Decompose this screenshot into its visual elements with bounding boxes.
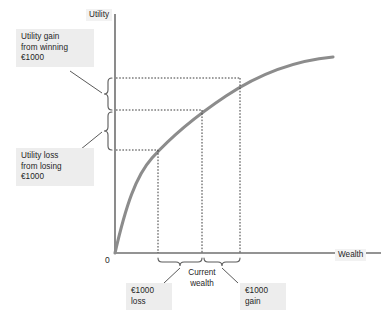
annotation-current-wealth: Current wealth [170, 268, 234, 289]
utility-gain-brace [104, 78, 112, 110]
annotation-gain-amount: €1000 gain [240, 283, 286, 310]
utility-loss-brace [104, 112, 112, 150]
annotation-loss-amount: €1000 loss [126, 283, 172, 310]
utility-curve [115, 57, 333, 253]
leader-line-utility-gain [70, 71, 102, 93]
x-axis-label: Wealth [335, 249, 366, 261]
loss-amount-brace [158, 258, 202, 266]
annotation-utility-loss: Utility loss from losing €1000 [16, 148, 94, 186]
gain-amount-brace [204, 258, 240, 266]
y-axis-label: Utility [86, 9, 112, 21]
annotation-utility-gain: Utility gain from winning €1000 [16, 29, 94, 67]
origin-tick-label: 0 [105, 255, 110, 265]
